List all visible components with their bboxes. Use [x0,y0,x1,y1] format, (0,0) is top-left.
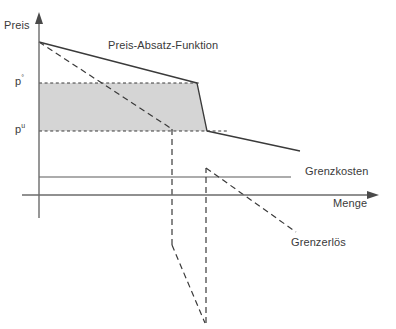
chart-figure: Preis Menge Preis-Absatz-Funktion Grenzk… [0,0,396,329]
marginal-cost-label: Grenzkosten [305,166,368,177]
marginal-revenue-lower-branch [172,245,205,323]
x-axis-label: Menge [333,198,367,209]
x-axis-arrowhead [367,191,379,199]
price-upper-tick-sup: ° [21,74,24,81]
marginal-revenue-label: Grenzerlös [291,237,346,248]
y-axis-label: Preis [4,20,30,31]
price-lower-tick-sup: u [21,122,25,129]
price-upper-tick-label: p° [15,76,24,87]
y-axis-arrowhead [35,12,43,24]
demand-curve-label: Preis-Absatz-Funktion [108,40,218,51]
shaded-price-region [39,83,207,131]
marginal-revenue-final-branch [206,168,296,232]
price-lower-tick-label: pu [15,124,25,135]
